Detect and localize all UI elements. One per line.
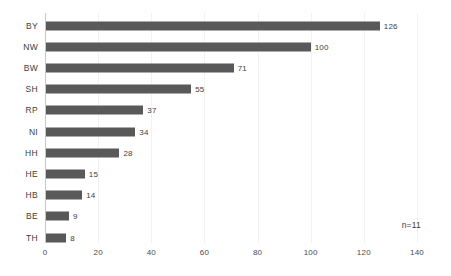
bar-row: HB14 — [0, 185, 451, 206]
bar-row: SH55 — [0, 79, 451, 100]
bar-value-by: 126 — [384, 21, 398, 30]
bar-he — [46, 169, 85, 178]
bar-rp — [46, 106, 143, 115]
category-label-sh: SH — [0, 84, 38, 94]
bar-value-he: 15 — [89, 169, 98, 178]
bar-nw — [46, 42, 311, 51]
category-label-nw: NW — [0, 42, 38, 52]
bar-be — [46, 212, 69, 221]
category-label-hb: HB — [0, 190, 38, 200]
category-label-by: BY — [0, 21, 38, 31]
bar-value-nw: 100 — [315, 42, 329, 51]
x-tick-label: 0 — [25, 248, 65, 257]
x-tick-label: 100 — [291, 248, 331, 257]
category-label-be: BE — [0, 211, 38, 221]
bar-ni — [46, 127, 135, 136]
x-tick-label: 140 — [397, 248, 437, 257]
category-label-hh: HH — [0, 148, 38, 158]
bar-value-bw: 71 — [238, 63, 247, 72]
bar-bw — [46, 63, 234, 72]
bar-row: HE15 — [0, 163, 451, 184]
bar-chart: 020406080100120140 BY126NW100BW71SH55RP3… — [0, 0, 451, 276]
bar-hh — [46, 148, 119, 157]
bar-row: NI34 — [0, 121, 451, 142]
category-label-he: HE — [0, 169, 38, 179]
x-tick-label: 40 — [131, 248, 171, 257]
bar-value-hh: 28 — [123, 148, 132, 157]
bar-row: BE9 — [0, 206, 451, 227]
bar-value-hb: 14 — [86, 191, 95, 200]
bar-row: BY126 — [0, 15, 451, 36]
category-label-bw: BW — [0, 63, 38, 73]
bar-row: RP37 — [0, 100, 451, 121]
x-tick-label: 60 — [184, 248, 224, 257]
sample-size-annotation: n=11 — [402, 220, 421, 230]
x-tick-label: 20 — [78, 248, 118, 257]
x-tick-label: 80 — [238, 248, 278, 257]
bar-hb — [46, 191, 82, 200]
category-label-th: TH — [0, 233, 38, 243]
bar-row: TH8 — [0, 227, 451, 248]
bar-value-sh: 55 — [195, 85, 204, 94]
category-label-rp: RP — [0, 105, 38, 115]
y-axis-line — [45, 13, 46, 243]
bar-th — [46, 233, 66, 242]
bar-value-rp: 37 — [147, 106, 156, 115]
category-label-ni: NI — [0, 127, 38, 137]
bar-row: BW71 — [0, 57, 451, 78]
bar-value-ni: 34 — [139, 127, 148, 136]
bar-row: HH28 — [0, 142, 451, 163]
bar-value-be: 9 — [73, 212, 78, 221]
x-tick-label: 120 — [344, 248, 384, 257]
bar-by — [46, 21, 380, 30]
bar-row: NW100 — [0, 36, 451, 57]
bar-value-th: 8 — [70, 233, 75, 242]
bar-sh — [46, 85, 191, 94]
